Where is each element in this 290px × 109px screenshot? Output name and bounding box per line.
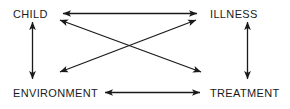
node-label-environment: ENVIRONMENT bbox=[13, 88, 98, 99]
relationship-diagram: CHILD ILLNESS ENVIRONMENT TREATMENT bbox=[0, 0, 290, 109]
node-label-illness: ILLNESS bbox=[210, 9, 258, 20]
node-label-treatment: TREATMENT bbox=[210, 88, 280, 99]
node-label-child: CHILD bbox=[13, 9, 48, 20]
